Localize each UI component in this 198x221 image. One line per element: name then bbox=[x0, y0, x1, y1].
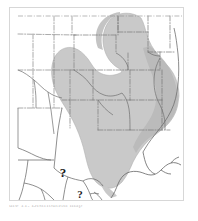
map-plate-frame: ? ? bbox=[9, 7, 184, 201]
figure-caption: ure 11. Distribution map bbox=[9, 205, 184, 219]
uncertainty-marker-south: ? bbox=[77, 188, 83, 200]
distribution-map: ? ? bbox=[10, 8, 183, 200]
figure-root: ? ? ure 11. Distribution map bbox=[0, 0, 198, 221]
figure-caption-text: ure 11. Distribution map bbox=[9, 205, 184, 209]
uncertainty-marker-north: ? bbox=[60, 165, 67, 180]
